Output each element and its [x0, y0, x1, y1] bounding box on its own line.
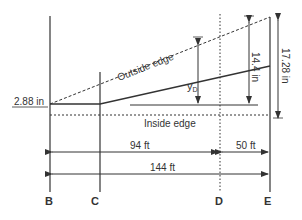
station-d-label: D — [215, 195, 223, 207]
station-b-label: B — [45, 195, 53, 207]
dim-144-label: 144 ft — [150, 162, 175, 173]
dim-50-label: 50 ft — [236, 140, 256, 151]
dim-94-label: 94 ft — [130, 140, 150, 151]
centerline-profile — [50, 66, 270, 104]
superelevation-diagram: Outside edge Inside edge 2.88 in yD 14.4… — [0, 0, 302, 220]
station-e-label: E — [264, 195, 271, 207]
left-offset-label: 2.88 in — [14, 96, 44, 107]
dim-14-4-label: 14.4 in — [250, 52, 261, 82]
station-c-label: C — [91, 195, 99, 207]
outside-edge-label: Outside edge — [116, 51, 176, 83]
dim-17-28-label: 17.28 in — [280, 48, 291, 84]
inside-edge-label: Inside edge — [144, 118, 196, 129]
